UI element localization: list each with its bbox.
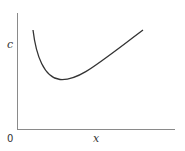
chart-canvas	[0, 0, 185, 151]
x-axis-label: x	[93, 132, 99, 145]
cost-curve	[33, 30, 143, 80]
origin-label: 0	[7, 133, 13, 144]
y-axis-label: c	[7, 38, 13, 51]
